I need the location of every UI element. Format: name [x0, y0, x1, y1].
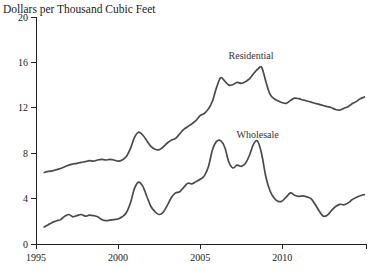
x-tick-label: 2010	[272, 252, 292, 263]
line-chart: Dollars per Thousand Cubic Feet 04812162…	[0, 0, 371, 270]
x-tick-label: 2000	[108, 252, 128, 263]
wholesale-label: Wholesale	[236, 129, 279, 140]
y-tick-label: 12	[18, 102, 28, 113]
y-tick-label: 20	[18, 12, 28, 23]
y-tick-label: 4	[23, 193, 28, 204]
y-tick-label: 8	[23, 148, 28, 159]
y-tick-label: 0	[23, 239, 28, 250]
chart-figure: Dollars per Thousand Cubic Feet 04812162…	[0, 0, 371, 270]
plot-area: 0481216201995200020052010ResidentialWhol…	[18, 12, 366, 264]
wholesale-line	[44, 140, 364, 227]
y-tick-label: 16	[18, 57, 28, 68]
residential-line	[44, 67, 364, 173]
residential-label: Residential	[229, 50, 274, 61]
x-tick-label: 2005	[190, 252, 210, 263]
x-tick-label: 1995	[26, 252, 46, 263]
